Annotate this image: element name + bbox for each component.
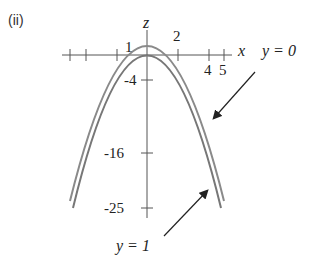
chart-plot	[0, 0, 318, 263]
z-tick-neg16: -16	[104, 146, 124, 161]
arrow-y0	[214, 72, 255, 118]
z-tick-neg4: -4	[124, 73, 137, 88]
z-tick-neg25: -25	[104, 201, 124, 216]
arrow-y1	[164, 191, 207, 236]
x-axis-label: x	[238, 43, 245, 59]
annotation-y0: y = 0	[262, 43, 296, 59]
z-tick-1: 1	[125, 40, 133, 55]
x-tick-4: 4	[204, 63, 212, 78]
x-tick-5: 5	[219, 63, 227, 78]
annotation-y1: y = 1	[116, 238, 150, 254]
z-axis-label: z	[143, 15, 149, 31]
x-tick-2: 2	[173, 29, 181, 44]
